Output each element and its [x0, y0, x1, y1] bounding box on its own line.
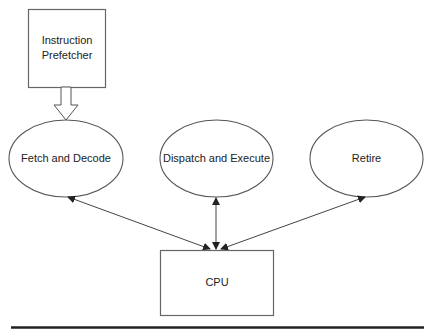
connector-cpu-retire — [221, 197, 365, 249]
connector-cpu-fetch — [68, 197, 210, 249]
retire-label: Retire — [310, 151, 423, 166]
dispatch-execute-label: Dispatch and Execute — [160, 151, 273, 166]
prefetcher-label: Instruction Prefetcher — [28, 33, 106, 63]
cpu-label: CPU — [160, 275, 274, 290]
prefetcher-label-line2: Prefetcher — [28, 48, 106, 63]
fetch-decode-label: Fetch and Decode — [9, 151, 123, 166]
block-arrow-icon — [54, 87, 78, 120]
prefetcher-label-line1: Instruction — [28, 33, 106, 48]
